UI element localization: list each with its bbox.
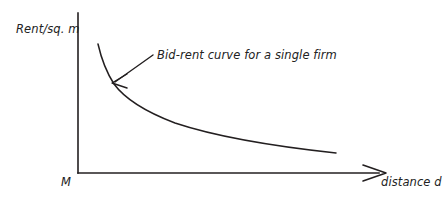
annotation-arrowhead-icon <box>112 74 127 88</box>
x-axis-label: distance d <box>381 177 442 189</box>
y-axis-label: Rent/sq. m <box>16 24 80 36</box>
origin-label: M <box>61 177 71 189</box>
bid-rent-curve-annotation-label: Bid-rent curve for a single firm <box>157 50 337 62</box>
bid-rent-curve-figure: Rent/sq. m distance d M Bid-rent curve f… <box>0 0 447 197</box>
